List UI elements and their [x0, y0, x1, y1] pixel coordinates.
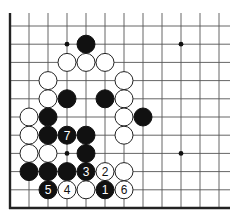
star-point-icon: [179, 42, 184, 47]
white-stone-icon: [115, 126, 133, 144]
white-stone[interactable]: [77, 53, 95, 71]
move-number-label: 3: [83, 165, 90, 179]
white-stone[interactable]: [39, 72, 57, 90]
black-stone-icon: [77, 126, 95, 144]
white-stone-icon: [77, 181, 95, 199]
black-stone-move-3[interactable]: 3: [77, 163, 95, 181]
black-stone[interactable]: [77, 144, 95, 162]
white-stone[interactable]: [115, 163, 133, 181]
white-stone[interactable]: [39, 144, 57, 162]
white-stone-icon: [58, 53, 76, 71]
black-stone-move-1[interactable]: 1: [96, 181, 114, 199]
go-board[interactable]: 7325416: [0, 0, 237, 215]
white-stone[interactable]: [115, 108, 133, 126]
white-stone[interactable]: [115, 90, 133, 108]
white-stone[interactable]: [20, 126, 38, 144]
black-stone[interactable]: [39, 163, 57, 181]
black-stone[interactable]: [20, 163, 38, 181]
black-stone[interactable]: [39, 108, 57, 126]
black-stone[interactable]: [58, 163, 76, 181]
white-stone-icon: [20, 108, 38, 126]
black-stone-icon: [96, 90, 114, 108]
black-stone-icon: [39, 108, 57, 126]
white-stone-icon: [39, 90, 57, 108]
black-stone-icon: [20, 163, 38, 181]
star-point-icon: [65, 151, 70, 156]
black-stone[interactable]: [77, 35, 95, 53]
white-stone[interactable]: [58, 53, 76, 71]
move-number-label: 2: [102, 165, 109, 179]
move-number-label: 5: [45, 183, 52, 197]
black-stone[interactable]: [58, 90, 76, 108]
white-stone-icon: [115, 90, 133, 108]
white-stone[interactable]: [20, 108, 38, 126]
black-stone-icon: [77, 144, 95, 162]
white-stone[interactable]: [77, 181, 95, 199]
black-stone-icon: [39, 163, 57, 181]
star-point-icon: [179, 151, 184, 156]
black-stone-move-7[interactable]: 7: [58, 126, 76, 144]
black-stone[interactable]: [39, 126, 57, 144]
black-stone-icon: [58, 163, 76, 181]
black-stone-icon: [39, 126, 57, 144]
white-stone[interactable]: [115, 126, 133, 144]
white-stone-icon: [39, 72, 57, 90]
move-number-label: 1: [102, 183, 109, 197]
black-stone-icon: [58, 90, 76, 108]
move-number-label: 7: [64, 129, 71, 143]
white-stone-icon: [96, 53, 114, 71]
white-stone-icon: [115, 72, 133, 90]
black-stone-icon: [134, 108, 152, 126]
black-stone-icon: [77, 35, 95, 53]
black-stone[interactable]: [77, 126, 95, 144]
white-stone-icon: [20, 126, 38, 144]
white-stone[interactable]: [39, 90, 57, 108]
move-number-label: 6: [121, 183, 128, 197]
white-stone[interactable]: [20, 144, 38, 162]
white-stone-icon: [39, 144, 57, 162]
white-stone[interactable]: [115, 72, 133, 90]
white-stone-icon: [77, 53, 95, 71]
black-stone[interactable]: [134, 108, 152, 126]
black-stone-move-5[interactable]: 5: [39, 181, 57, 199]
move-number-label: 4: [64, 183, 71, 197]
white-stone-move-4[interactable]: 4: [58, 181, 76, 199]
black-stone[interactable]: [96, 90, 114, 108]
white-stone-icon: [20, 144, 38, 162]
star-point-icon: [65, 42, 70, 47]
white-stone-move-2[interactable]: 2: [96, 163, 114, 181]
white-stone-move-6[interactable]: 6: [115, 181, 133, 199]
white-stone-icon: [115, 108, 133, 126]
white-stone-icon: [115, 163, 133, 181]
white-stone[interactable]: [96, 53, 114, 71]
